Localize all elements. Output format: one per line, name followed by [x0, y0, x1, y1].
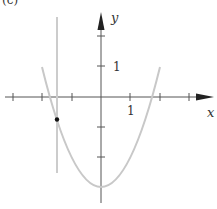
- y-axis-arrow-icon: [98, 12, 105, 30]
- x-axis-label: x: [207, 105, 215, 120]
- x-axis-arrow-icon: [196, 94, 214, 101]
- intersection-point: [55, 117, 59, 121]
- y-tick-label-1: 1: [113, 60, 121, 74]
- x-tick-label-1: 1: [127, 104, 135, 118]
- graph-plot: (c) y x 1 1: [0, 0, 217, 209]
- panel-label: (c): [2, 0, 18, 7]
- y-axis-label: y: [110, 10, 119, 25]
